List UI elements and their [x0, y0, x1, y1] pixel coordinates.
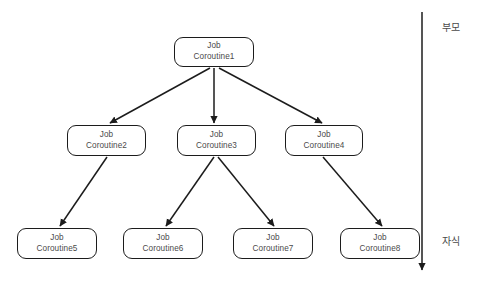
- node-line-1: Job: [100, 130, 114, 141]
- node-coroutine6[interactable]: Job Coroutine6: [123, 228, 203, 259]
- node-coroutine5[interactable]: Job Coroutine5: [17, 228, 97, 259]
- node-line-1: Job: [210, 130, 224, 141]
- node-line-2: Coroutine7: [252, 244, 293, 255]
- axis-label-parent: 부모: [442, 19, 461, 34]
- node-line-2: Coroutine6: [142, 244, 183, 255]
- node-coroutine8[interactable]: Job Coroutine8: [340, 228, 420, 259]
- node-line-2: Coroutine2: [86, 141, 127, 152]
- node-line-1: Job: [317, 130, 331, 141]
- node-line-2: Coroutine8: [359, 244, 400, 255]
- node-coroutine2[interactable]: Job Coroutine2: [67, 125, 146, 156]
- node-line-1: Job: [373, 233, 387, 244]
- node-line-2: Coroutine4: [303, 141, 344, 152]
- node-coroutine1[interactable]: Job Coroutine1: [174, 37, 254, 67]
- axis-label-child: 자식: [442, 233, 461, 248]
- diagram-canvas: Job Coroutine1 Job Coroutine2 Job Corout…: [0, 0, 483, 283]
- node-line-2: Coroutine1: [193, 52, 234, 63]
- edge-c3-c7: [218, 157, 274, 226]
- node-coroutine7[interactable]: Job Coroutine7: [233, 228, 313, 259]
- edge-c1-c4: [219, 68, 322, 123]
- node-line-1: Job: [156, 233, 170, 244]
- edge-c4-c8: [323, 157, 382, 226]
- edge-c2-c5: [60, 157, 107, 226]
- edge-c3-c6: [166, 157, 214, 226]
- node-line-1: Job: [207, 41, 221, 52]
- node-coroutine4[interactable]: Job Coroutine4: [285, 125, 363, 156]
- node-line-1: Job: [266, 233, 280, 244]
- node-line-1: Job: [50, 233, 64, 244]
- edge-c1-c2: [110, 68, 210, 123]
- node-coroutine3[interactable]: Job Coroutine3: [177, 125, 256, 156]
- node-line-2: Coroutine3: [196, 141, 237, 152]
- node-line-2: Coroutine5: [36, 244, 77, 255]
